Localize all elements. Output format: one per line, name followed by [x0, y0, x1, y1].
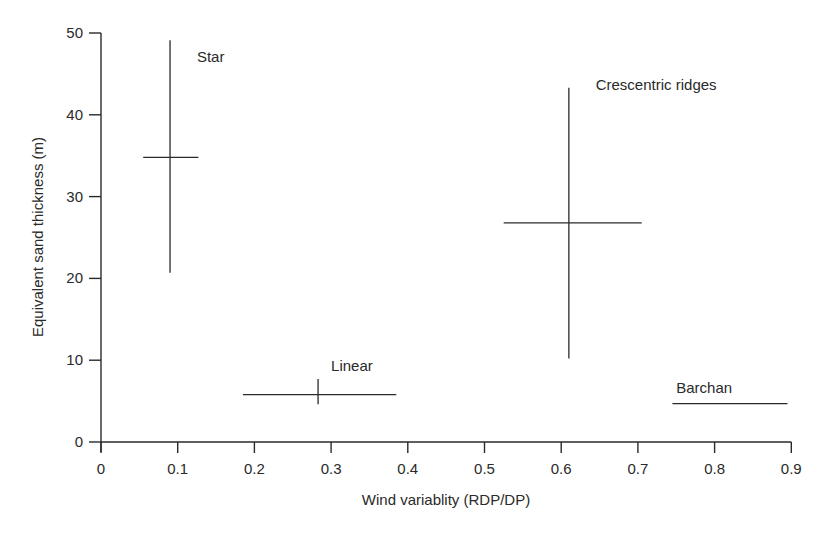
x-tick-label: 0.6	[551, 460, 572, 477]
x-tick-label: 0.1	[167, 460, 188, 477]
x-tick-label: 0.3	[321, 460, 342, 477]
y-tick-label: 0	[75, 433, 83, 450]
x-axis-ticks: 00.10.20.30.40.50.60.70.80.9	[97, 442, 802, 477]
x-tick-label: 0.7	[627, 460, 648, 477]
y-tick-label: 20	[66, 269, 83, 286]
y-tick-label: 10	[66, 351, 83, 368]
y-tick-label: 30	[66, 188, 83, 205]
range-cross-crescentric-ridges	[504, 88, 642, 359]
annotation-label: Star	[197, 48, 225, 65]
x-tick-label: 0.5	[474, 460, 495, 477]
y-tick-label: 50	[66, 24, 83, 41]
x-tick-label: 0.4	[397, 460, 418, 477]
x-tick-label: 0.2	[244, 460, 265, 477]
x-axis-label: Wind variablity (RDP/DP)	[362, 491, 530, 508]
annotation-label: Linear	[331, 357, 373, 374]
y-axis-ticks: 01020304050	[66, 24, 101, 450]
y-tick-label: 40	[66, 106, 83, 123]
annotation-label: Barchan	[676, 379, 732, 396]
x-tick-label: 0	[97, 460, 105, 477]
range-cross-star	[143, 40, 198, 272]
annotation-label: Crescentric ridges	[596, 76, 717, 93]
y-axis-label: Equivalent sand thickness (m)	[29, 137, 46, 337]
data-series	[143, 40, 787, 404]
x-tick-label: 0.9	[781, 460, 802, 477]
range-cross-linear	[243, 379, 396, 404]
x-tick-label: 0.8	[704, 460, 725, 477]
annotations: StarCrescentric ridgesLinearBarchan	[197, 48, 732, 396]
chart: 00.10.20.30.40.50.60.70.80.9 01020304050…	[0, 0, 826, 538]
